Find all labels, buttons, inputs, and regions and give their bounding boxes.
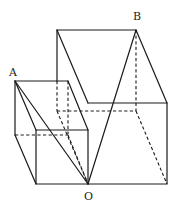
large-cube-top-right-edge — [136, 30, 167, 103]
small-cube-front-face — [36, 130, 88, 184]
small-cube-bottom-left-edge — [15, 135, 36, 184]
large-cube-front-face — [88, 103, 167, 184]
label-O: O — [84, 190, 93, 203]
two-cubes-diagram: A B O — [0, 0, 176, 211]
small-cube-top-right-edge — [68, 81, 88, 130]
segment-BO — [88, 30, 136, 184]
label-B: B — [133, 10, 141, 23]
label-A: A — [8, 66, 18, 79]
segment-AO — [15, 81, 88, 184]
large-cube-hidden-bottom-right — [136, 111, 167, 184]
